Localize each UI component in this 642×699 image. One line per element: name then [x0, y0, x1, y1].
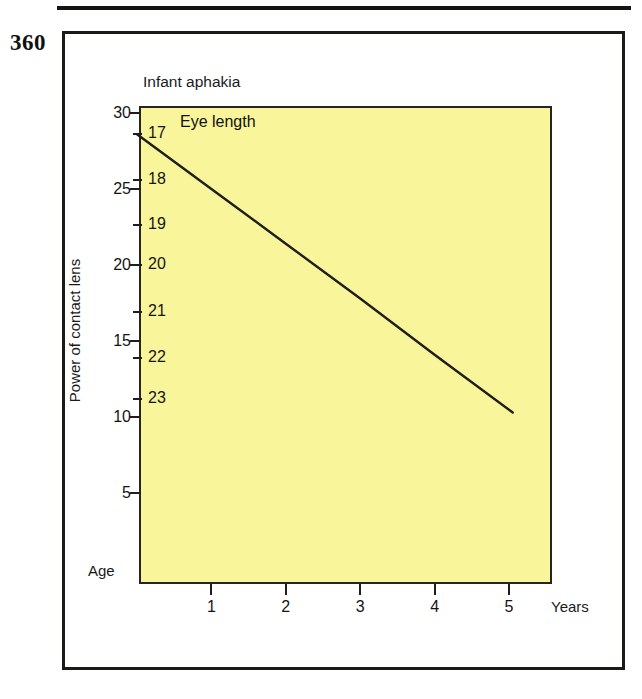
page-header-rule — [57, 6, 631, 10]
page-number: 360 — [10, 30, 46, 56]
figure-frame — [62, 31, 625, 670]
